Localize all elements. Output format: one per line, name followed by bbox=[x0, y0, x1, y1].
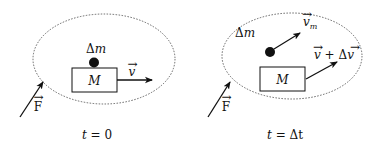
particle-dm-icon bbox=[265, 47, 275, 57]
particle-dm-label: Δm bbox=[235, 26, 255, 40]
vector-accent-icon: → bbox=[33, 90, 43, 104]
vector-accent-icon: → bbox=[350, 40, 360, 54]
body-M-label: M bbox=[87, 74, 101, 88]
time-caption: t = 0 bbox=[82, 128, 112, 142]
velocity-v-plus-dv-arrow-icon bbox=[306, 62, 337, 79]
momentum-diagram: M Δm v → F → t = 0 M Δm vm → v + Δv bbox=[0, 0, 384, 151]
vector-accent-icon: → bbox=[313, 40, 323, 54]
panel-initial: M Δm v → F → t = 0 bbox=[20, 14, 175, 142]
particle-dm-label: Δm bbox=[86, 42, 106, 56]
time-caption: t = Δt bbox=[267, 128, 303, 142]
vector-accent-icon: → bbox=[127, 57, 137, 71]
body-M-label: M bbox=[275, 73, 289, 87]
vector-accent-icon: → bbox=[221, 90, 231, 104]
velocity-vm-arrow-icon bbox=[274, 33, 300, 49]
panel-after: M Δm vm → v + Δv → → F → t = Δt bbox=[208, 7, 362, 142]
particle-dm-icon bbox=[89, 58, 99, 68]
vector-accent-icon: → bbox=[302, 7, 312, 21]
